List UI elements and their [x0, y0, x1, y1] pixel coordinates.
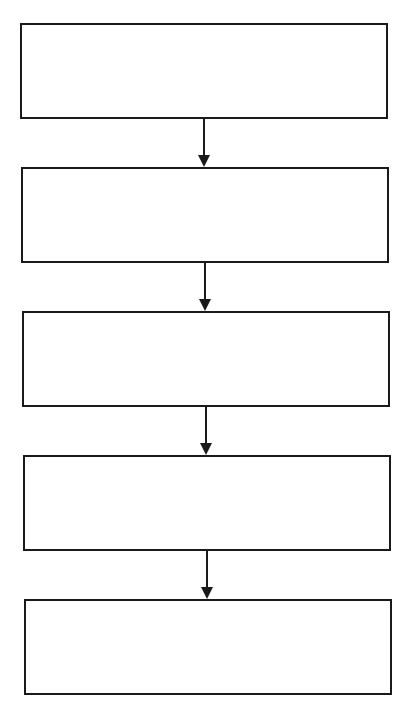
arrow-down-icon	[201, 550, 213, 599]
arrow-down-icon	[200, 406, 212, 455]
flowchart-box-4	[23, 455, 391, 551]
flowchart-box-5	[24, 599, 392, 695]
flowchart-box-3	[22, 311, 390, 407]
arrow-down-icon	[198, 118, 210, 167]
flowchart-box-2	[21, 167, 389, 263]
flowchart-box-1	[20, 23, 388, 119]
arrow-down-icon	[199, 262, 211, 311]
